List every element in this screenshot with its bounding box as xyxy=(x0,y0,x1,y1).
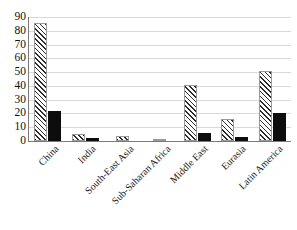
x-tick-label: India xyxy=(76,143,98,165)
y-tick-label: 40 xyxy=(0,80,26,92)
bar-series-hatched xyxy=(259,71,272,141)
bar-series-hatched xyxy=(153,139,166,141)
bars-layer xyxy=(29,17,291,141)
bar-series-solid xyxy=(48,111,61,141)
x-axis-tick-labels: ChinaIndiaSouth-East AsiaSub-Saharan Afr… xyxy=(28,143,290,230)
y-tick-label: 20 xyxy=(0,107,26,119)
bar-chart: 9080706050403020100 ChinaIndiaSouth-East… xyxy=(0,0,297,230)
y-tick-label: 0 xyxy=(0,135,26,147)
bar-series-solid xyxy=(86,138,99,141)
bar-series-hatched xyxy=(221,119,234,141)
y-tick-label: 30 xyxy=(0,94,26,106)
bar-group xyxy=(141,17,178,141)
plot-area xyxy=(28,17,291,142)
bar-group xyxy=(104,17,141,141)
y-tick-label: 10 xyxy=(0,121,26,133)
bar-group xyxy=(179,17,216,141)
y-axis-tick-labels: 9080706050403020100 xyxy=(0,0,26,230)
x-tick-label: China xyxy=(36,143,61,168)
bar-group xyxy=(29,17,66,141)
y-tick-label: 70 xyxy=(0,39,26,51)
bar-series-hatched xyxy=(184,85,197,141)
bar-group xyxy=(216,17,253,141)
bar-series-solid xyxy=(198,133,211,141)
y-tick-label: 90 xyxy=(0,11,26,23)
bar-series-hatched xyxy=(116,136,129,142)
bar-series-hatched xyxy=(72,134,85,141)
y-tick-label: 80 xyxy=(0,25,26,37)
bar-group xyxy=(66,17,103,141)
x-tick-label: Middle East xyxy=(168,143,210,185)
y-tick-label: 60 xyxy=(0,52,26,64)
bar-group xyxy=(254,17,291,141)
bar-series-hatched xyxy=(34,23,47,141)
y-tick-label: 50 xyxy=(0,66,26,78)
bar-series-solid xyxy=(273,113,286,141)
bar-series-solid xyxy=(235,137,248,141)
x-tick-label: Eurasia xyxy=(219,143,248,172)
